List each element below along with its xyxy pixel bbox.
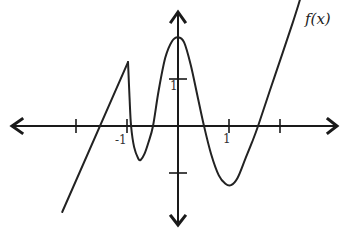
axes [12,12,337,225]
curve-segment-1 [128,0,300,186]
x-tick-label-1: 1 [223,132,231,146]
function-graph: -1 1 1 f(x) [0,0,341,228]
function-label: f(x) [304,10,331,28]
x-tick-label-neg1: -1 [115,133,127,147]
curve [62,0,300,212]
y-tick-label-1: 1 [170,79,178,93]
